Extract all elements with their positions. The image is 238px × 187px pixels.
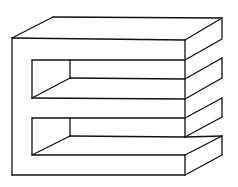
impossible-e-figure	[0, 0, 238, 187]
lower-gap	[32, 118, 185, 155]
figure	[0, 0, 238, 187]
top-slab	[12, 17, 222, 60]
middle-bar	[32, 98, 222, 137]
bottom-bar	[185, 136, 222, 175]
second-bar	[185, 58, 222, 99]
upper-gap	[32, 60, 185, 99]
